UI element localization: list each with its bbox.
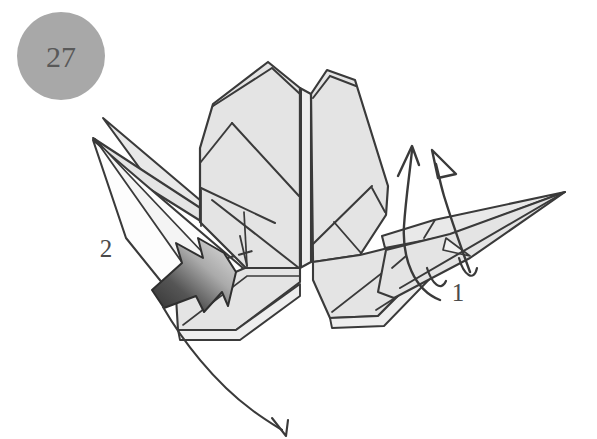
step-number-badge: 27: [17, 12, 105, 100]
fold-label-2: 2: [100, 235, 113, 262]
body-left-outline: [200, 62, 300, 268]
origami-figure: Origami folding step 27Gray origami mode…: [0, 0, 597, 439]
rotation-hollow-arrowhead: [432, 150, 456, 178]
fold-label-1: 1: [452, 279, 465, 306]
central-body-right-panel: [311, 70, 388, 262]
step-badge-number: 27: [46, 40, 76, 73]
origami-diagram: Origami folding step 27Gray origami mode…: [0, 0, 597, 439]
central-spine: [300, 88, 311, 268]
central-body-left-panel: [200, 62, 300, 268]
sweep-arrow-head: [272, 418, 288, 436]
